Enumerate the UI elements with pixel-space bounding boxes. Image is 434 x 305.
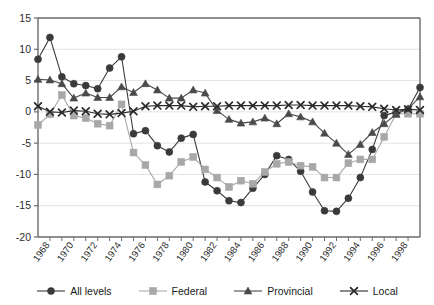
line-chart-svg: 151050-5-10-15-20 1968197019721974197619… <box>0 0 434 305</box>
data-point-circle <box>226 197 233 204</box>
legend-item-provincial[interactable]: Provincial <box>233 284 313 298</box>
data-point-circle <box>35 56 42 63</box>
data-point-circle <box>70 80 77 87</box>
x-axis-tick-label: 1986 <box>245 240 266 264</box>
data-point-circle <box>94 85 101 92</box>
data-point-square <box>35 122 42 129</box>
x-axis-tick-label: 1990 <box>293 240 314 264</box>
data-point-square <box>369 156 376 163</box>
data-point-circle <box>321 207 328 214</box>
x-axis-tick-label: 1968 <box>30 240 51 264</box>
y-axis-tick-label: -10 <box>16 168 31 180</box>
legend-marker-triangle-icon <box>233 284 263 298</box>
x-axis-tick-label: 1978 <box>150 240 171 264</box>
x-axis-tick-label: 1994 <box>341 240 362 264</box>
data-point-triangle <box>34 75 42 82</box>
data-point-circle <box>190 131 197 138</box>
data-point-square <box>142 162 149 169</box>
x-axis-tick-label: 1984 <box>221 240 242 264</box>
data-point-square <box>58 92 65 99</box>
data-point-circle <box>48 288 55 295</box>
data-point-circle <box>214 187 221 194</box>
legend-label: All levels <box>70 285 111 297</box>
data-point-square <box>238 177 245 184</box>
data-point-square <box>166 172 173 179</box>
data-point-square <box>190 154 197 161</box>
data-point-square <box>345 160 352 167</box>
data-point-triangle <box>368 129 376 136</box>
x-axis-tick-label: 1970 <box>54 240 75 264</box>
data-point-triangle <box>82 89 90 96</box>
legend-item-all-levels[interactable]: All levels <box>36 284 111 298</box>
data-point-square <box>381 133 388 140</box>
y-axis-tick-label: -15 <box>16 199 31 211</box>
data-point-square <box>118 101 125 108</box>
data-point-circle <box>118 53 125 60</box>
data-point-triangle <box>261 114 269 121</box>
data-point-circle <box>202 178 209 185</box>
data-point-circle <box>417 84 424 91</box>
data-point-circle <box>178 135 185 142</box>
x-axis-tick-label: 1972 <box>78 240 99 264</box>
data-series-group <box>34 34 424 215</box>
chart-legend: All levelsFederalProvincialLocal <box>0 281 434 301</box>
legend-item-federal[interactable]: Federal <box>138 284 208 298</box>
data-point-square <box>285 159 292 166</box>
data-point-circle <box>142 127 149 134</box>
data-point-circle <box>333 208 340 215</box>
data-point-square <box>297 162 304 169</box>
data-point-square <box>202 166 209 173</box>
y-axis-tick-label: -20 <box>16 231 31 243</box>
legend-marker-x-icon <box>339 284 369 298</box>
x-axis-tick-label: 1974 <box>102 240 123 264</box>
x-axis-tick-label: 1976 <box>126 240 147 264</box>
data-point-triangle <box>416 93 424 100</box>
data-point-circle <box>309 188 316 195</box>
x-axis-tick-label: 1996 <box>365 240 386 264</box>
data-point-circle <box>237 199 244 206</box>
data-point-square <box>154 181 161 188</box>
data-point-square <box>94 120 101 127</box>
y-axis-tick-label: 15 <box>19 12 31 24</box>
data-point-square <box>178 159 185 166</box>
data-point-triangle <box>118 83 126 90</box>
legend-marker-square-icon <box>138 284 168 298</box>
legend-label: Local <box>373 285 398 297</box>
data-point-square <box>106 122 113 129</box>
chart-container: 151050-5-10-15-20 1968197019721974197619… <box>0 0 434 305</box>
data-point-square <box>226 184 233 191</box>
data-point-triangle <box>189 86 197 93</box>
data-point-square <box>333 174 340 181</box>
data-point-triangle <box>225 115 233 122</box>
legend-item-local[interactable]: Local <box>339 284 398 298</box>
data-point-circle <box>82 82 89 89</box>
legend-label: Federal <box>172 285 208 297</box>
data-point-circle <box>369 146 376 153</box>
data-point-circle <box>381 112 388 119</box>
data-point-triangle <box>153 86 161 93</box>
data-point-circle <box>166 148 173 155</box>
data-point-circle <box>46 34 53 41</box>
data-point-circle <box>357 174 364 181</box>
data-point-circle <box>273 152 280 159</box>
legend-marker-circle-icon <box>36 284 66 298</box>
data-point-square <box>130 149 137 156</box>
x-axis-tick-label: 1992 <box>317 240 338 264</box>
data-point-square <box>214 174 221 181</box>
y-axis-tick-label: 0 <box>25 105 31 117</box>
data-point-square <box>357 156 364 163</box>
data-point-circle <box>106 65 113 72</box>
data-point-triangle <box>309 118 317 125</box>
data-point-square <box>273 160 280 167</box>
data-point-triangle <box>285 110 293 117</box>
y-axis-labels: 151050-5-10-15-20 <box>16 12 31 243</box>
y-axis-tick-label: 5 <box>25 74 31 86</box>
x-axis-tick-label: 1982 <box>198 240 219 264</box>
y-axis-tick-label: -5 <box>22 137 31 149</box>
x-axis-labels: 1968197019721974197619781980198219841986… <box>30 240 409 264</box>
data-point-triangle <box>130 89 138 96</box>
y-axis-tick-label: 10 <box>19 43 31 55</box>
data-point-square <box>249 180 256 187</box>
data-point-circle <box>130 130 137 137</box>
x-axis-tick-label: 1988 <box>269 240 290 264</box>
